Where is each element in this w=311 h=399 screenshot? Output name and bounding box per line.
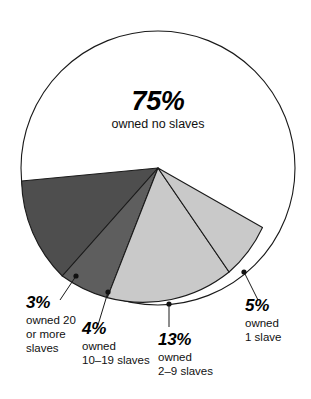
- slice-percent-no-slaves: 75%: [78, 88, 238, 115]
- slice-percent-1-slave: 5%: [245, 297, 281, 314]
- slice-description-20-or-more: owned 20 or more slaves: [26, 313, 76, 355]
- slice-label-no-slaves: 75% owned no slaves: [78, 88, 238, 132]
- slice-description-10-to-19: owned 10–19 slaves: [82, 339, 150, 367]
- slice-label-2-to-9: 13% owned 2–9 slaves: [158, 331, 213, 378]
- callout-dot-1-slave: [241, 269, 246, 274]
- slice-label-20-or-more: 3% owned 20 or more slaves: [26, 294, 76, 355]
- slice-description-1-slave: owned 1 slave: [245, 316, 281, 344]
- slice-percent-20-or-more: 3%: [26, 294, 76, 311]
- slice-percent-2-to-9: 13%: [158, 331, 213, 348]
- callout-dot-20-or-more: [73, 273, 78, 278]
- slice-label-1-slave: 5% owned 1 slave: [245, 297, 281, 344]
- slice-percent-10-to-19: 4%: [82, 320, 150, 337]
- slice-description-2-to-9: owned 2–9 slaves: [158, 350, 213, 378]
- callout-dot-2-to-9: [166, 301, 171, 306]
- callout-dot-10-to-19: [105, 289, 110, 294]
- pie-chart: 75% owned no slaves 3% owned 20 or more …: [0, 0, 311, 399]
- slice-description-no-slaves: owned no slaves: [78, 117, 238, 132]
- slice-label-10-to-19: 4% owned 10–19 slaves: [82, 320, 150, 367]
